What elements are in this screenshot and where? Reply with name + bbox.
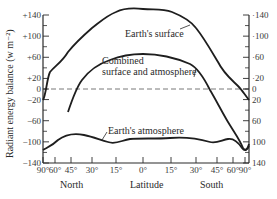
atmosphere-leader: [102, 132, 107, 140]
x-label-north: North: [60, 179, 83, 190]
y-tick-label-left: +20: [27, 73, 42, 83]
x-ticks: 90°60°45°30°15°0°15°30°45°60°90°: [37, 157, 252, 175]
x-axis-title: Latitude: [130, 179, 164, 190]
y-tick-label-left: −60: [27, 116, 42, 126]
y-tick-label-left: −100: [22, 137, 41, 147]
y-tick-label-right: 100: [252, 137, 266, 147]
y-tick-label-right: 140: [252, 158, 266, 168]
surface-leader: [180, 25, 190, 29]
y-tick-label-left: +140: [22, 10, 41, 20]
x-tick-label: 30°: [190, 165, 203, 175]
x-tick-label: 45°: [65, 165, 78, 175]
y-tick-label-right: ·60: [252, 52, 264, 62]
x-tick-label: 0°: [139, 165, 148, 175]
x-label-south: South: [200, 179, 223, 190]
surface-label: Earth's surface: [125, 28, 184, 39]
y-tick-label-right: 0: [252, 84, 257, 94]
atmosphere-curve: [43, 134, 249, 150]
y-tick-label-left: −20: [27, 95, 42, 105]
x-tick-label: 90°: [239, 165, 252, 175]
x-tick-label: 15°: [165, 165, 178, 175]
y-tick-label-left: 0: [37, 84, 42, 94]
y-tick-label-right: ·140: [252, 10, 269, 20]
y-tick-label-right: ·20: [252, 73, 264, 83]
y-tick-label-left: +60: [27, 52, 42, 62]
x-tick-label: 30°: [86, 165, 99, 175]
radiation-balance-chart: Radiant energy balance (w m⁻²) +140·140+…: [0, 0, 277, 199]
x-tick-label: 15°: [110, 165, 123, 175]
x-tick-label: 60°: [49, 165, 62, 175]
y-tick-label-left: +100: [22, 31, 41, 41]
atmosphere-label: Earth's atmosphere: [108, 125, 185, 136]
x-tick-label: 45°: [211, 165, 224, 175]
y-tick-label-right: 60: [252, 116, 262, 126]
y-axis-title: Radiant energy balance (w m⁻²): [4, 29, 16, 158]
combined-label-line2: surface and atmosphere: [102, 66, 197, 77]
combined-label-line1: Combined: [102, 55, 144, 66]
y-tick-label-right: 20: [252, 95, 262, 105]
y-tick-label-right: ·100: [252, 31, 269, 41]
